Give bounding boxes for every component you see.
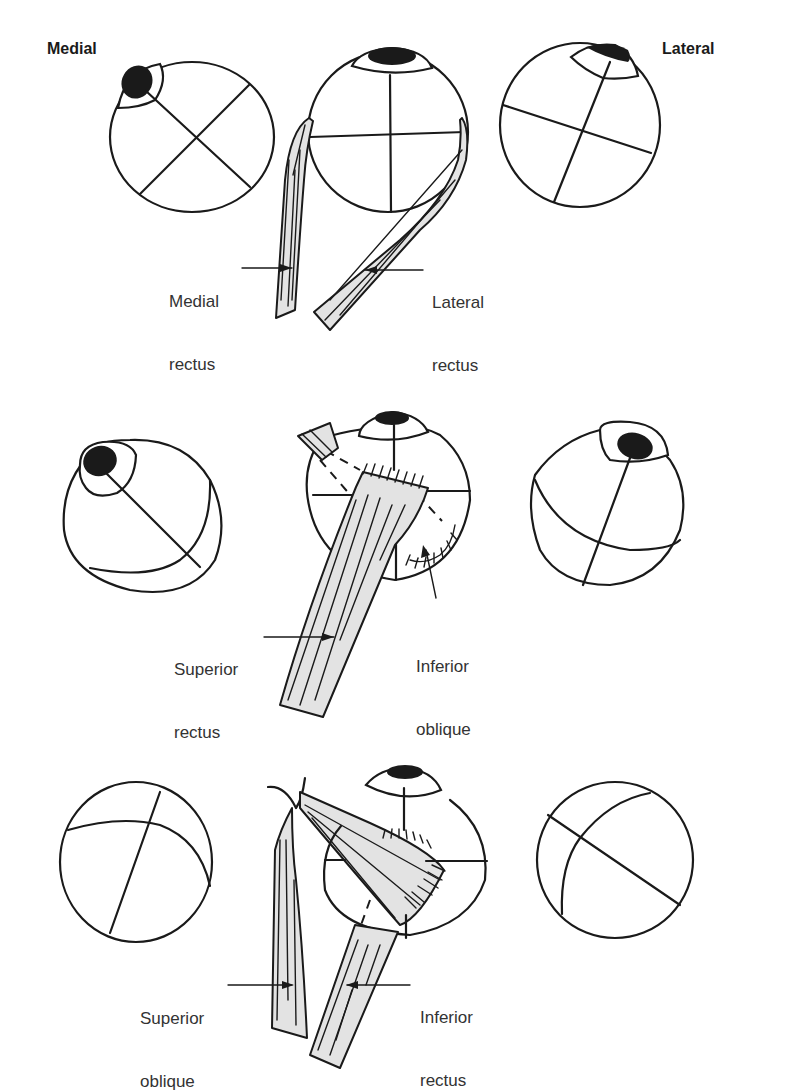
row1-left-eye-icon	[110, 60, 274, 212]
label-line: Superior	[174, 659, 238, 680]
label-line: rectus	[174, 722, 238, 743]
label-line: Inferior	[420, 1007, 473, 1028]
label-line: Superior	[140, 1008, 204, 1029]
medial-rectus-muscle	[276, 118, 313, 318]
label-line: Medial	[169, 291, 219, 312]
label-inferior-oblique: Inferior oblique	[416, 614, 471, 782]
row2-right-eye-icon	[531, 422, 683, 585]
superior-oblique-muscle	[268, 778, 307, 1038]
label-line: oblique	[416, 719, 471, 740]
inferior-rectus-muscle	[310, 925, 398, 1068]
row1-right-eye-icon	[500, 43, 660, 207]
label-line: rectus	[420, 1070, 473, 1090]
row3-left-eye-icon	[60, 782, 212, 942]
superior-oblique-tendon	[300, 792, 444, 925]
label-superior-rectus: Superior rectus	[174, 617, 238, 785]
label-line: Inferior	[416, 656, 471, 677]
superior-rectus-muscle	[280, 472, 428, 717]
row3-right-eye-icon	[537, 782, 693, 938]
row1-center-eye-icon	[308, 47, 468, 212]
label-inferior-rectus: Inferior rectus	[420, 965, 473, 1090]
label-line: Lateral	[432, 292, 484, 313]
label-lateral-rectus: Lateral rectus	[432, 250, 484, 418]
diagram-canvas	[0, 0, 798, 1090]
row2-left-eye-icon	[64, 440, 222, 592]
label-line: oblique	[140, 1071, 204, 1090]
label-superior-oblique: Superior oblique	[140, 966, 204, 1090]
label-line: rectus	[432, 355, 484, 376]
label-medial-rectus: Medial rectus	[169, 249, 219, 417]
label-line: rectus	[169, 354, 219, 375]
